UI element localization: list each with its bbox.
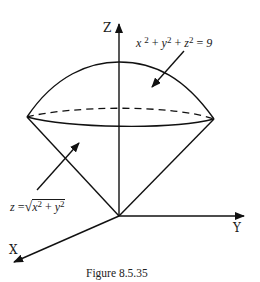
rim-back-dashed	[27, 108, 214, 119]
eq-rhs: 9	[206, 36, 212, 50]
sqrt-symbol: √	[24, 199, 32, 214]
eq-exponent: 2	[189, 35, 194, 45]
cone-right-edge	[119, 119, 214, 216]
figure-canvas: Z Y X x 2 + y2 + z2 = 9 z =√x2 + y2 Figu…	[0, 0, 260, 282]
y-axis-label: Y	[233, 222, 241, 234]
eq-equals: =	[196, 36, 203, 50]
eq-exponent: 2	[144, 35, 149, 45]
sphere-equation: x 2 + y2 + z2 = 9	[136, 36, 212, 49]
eq-exponent: 2	[60, 199, 65, 209]
sqrt-radicand: x2 + y2	[32, 199, 64, 213]
ice-cream-cone-diagram	[0, 0, 260, 282]
cone-equation: z =√x2 + y2	[10, 199, 65, 214]
sphere-cap-dome	[27, 62, 214, 119]
eq-var-z: z	[10, 200, 15, 214]
rim-front-solid	[27, 117, 214, 126]
eq-plus: +	[152, 36, 159, 50]
eq-var-x: x	[136, 36, 141, 50]
x-axis	[14, 216, 119, 262]
eq-exponent: 2	[167, 35, 172, 45]
z-axis-label: Z	[103, 22, 111, 34]
eq-plus: +	[45, 200, 52, 214]
figure-caption: Figure 8.5.35	[86, 268, 148, 280]
eq-plus: +	[174, 36, 181, 50]
eq-exponent: 2	[37, 199, 42, 209]
x-axis-label: X	[9, 244, 18, 256]
